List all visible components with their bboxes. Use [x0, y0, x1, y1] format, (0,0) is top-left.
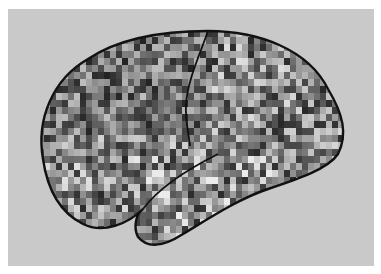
brain-contour	[41, 31, 343, 245]
lateral-sulcus	[143, 154, 218, 209]
image-panel	[8, 9, 374, 266]
central-sulcus	[186, 31, 208, 146]
brain-outline	[8, 9, 374, 266]
